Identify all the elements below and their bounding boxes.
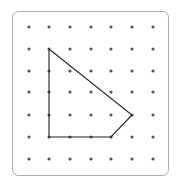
grid-dot	[27, 113, 30, 116]
grid-dot	[130, 90, 133, 93]
grid-dot	[130, 47, 133, 50]
grid-dot	[27, 90, 30, 93]
grid-dot	[68, 90, 71, 93]
grid-dot	[47, 157, 50, 160]
grid-dot	[27, 157, 30, 160]
grid-dot	[130, 135, 133, 138]
dot-grid	[27, 25, 154, 160]
grid-dot	[27, 135, 30, 138]
grid-dot	[109, 90, 112, 93]
grid-dot	[89, 47, 92, 50]
grid-dot	[109, 157, 112, 160]
grid-dot	[130, 157, 133, 160]
grid-dot	[151, 90, 154, 93]
grid-dot	[89, 25, 92, 28]
grid-dot	[68, 69, 71, 72]
grid-dot	[68, 113, 71, 116]
grid-dot	[89, 69, 92, 72]
grid-dot	[47, 25, 50, 28]
grid-dot	[27, 25, 30, 28]
grid-dot	[151, 25, 154, 28]
grid-dot	[151, 47, 154, 50]
grid-dot	[151, 69, 154, 72]
grid-dot	[151, 113, 154, 116]
grid-dot	[27, 47, 30, 50]
grid-dot	[109, 25, 112, 28]
grid-dot	[130, 69, 133, 72]
grid-dot	[130, 25, 133, 28]
grid-dot	[109, 113, 112, 116]
geoboard	[0, 0, 181, 187]
grid-dot	[109, 69, 112, 72]
grid-dot	[68, 47, 71, 50]
grid-dot	[89, 157, 92, 160]
grid-dot	[89, 113, 92, 116]
grid-dot	[68, 25, 71, 28]
grid-dot	[151, 157, 154, 160]
grid-dot	[89, 90, 92, 93]
grid-dot	[151, 135, 154, 138]
grid-dot	[68, 157, 71, 160]
grid-dot	[27, 69, 30, 72]
grid-dot	[109, 47, 112, 50]
